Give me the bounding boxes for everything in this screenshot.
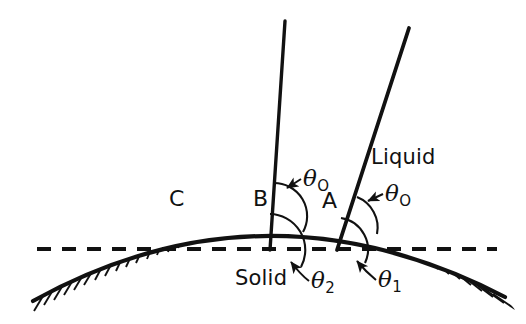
theta-zero-a-subscript: O (399, 192, 411, 210)
label-theta-zero-b: θO (303, 167, 329, 194)
label-theta-zero-a: θO (385, 182, 411, 209)
label-theta-two: θ2 (311, 269, 335, 296)
theta-zero-a-glyph: θ (385, 180, 399, 206)
theta-zero-b-subscript: O (317, 177, 329, 195)
theta-one-glyph: θ (378, 266, 392, 292)
leader-arrow-theta-one (357, 261, 376, 280)
label-solid: Solid (235, 268, 287, 289)
solid-hatching (34, 215, 515, 311)
angle-arc-theta-two (270, 214, 305, 267)
theta-two-subscript: 2 (325, 279, 335, 297)
leader-arrow-theta-zero-a (368, 194, 383, 201)
interface-line-a (337, 28, 409, 250)
theta-one-subscript: 1 (392, 278, 402, 296)
leader-arrow-theta-two (291, 262, 309, 281)
contact-angle-diagram: C B A θO θO θ2 θ1 Solid Liquid (0, 0, 526, 324)
leader-arrow-theta-zero-b (287, 179, 301, 188)
label-point-b: B (253, 188, 268, 210)
theta-two-glyph: θ (311, 267, 325, 293)
theta-zero-b-glyph: θ (303, 165, 317, 191)
label-liquid: Liquid (371, 147, 436, 168)
label-theta-one: θ1 (378, 268, 402, 295)
label-point-c: C (169, 188, 184, 210)
